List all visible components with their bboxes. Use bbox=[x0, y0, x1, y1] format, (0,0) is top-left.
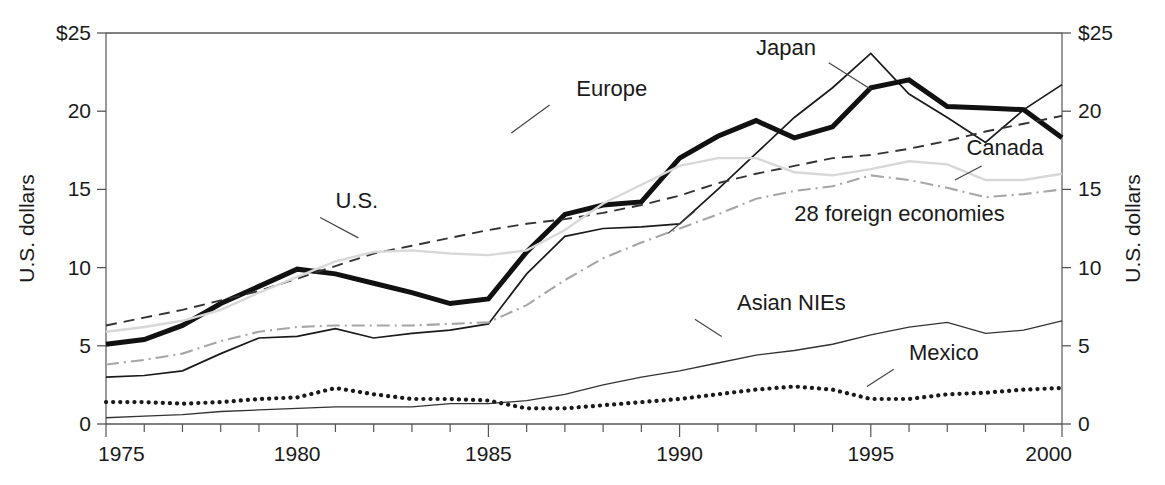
y-tick-label-left-15: 15 bbox=[68, 177, 91, 200]
x-tick-label-1995: 1995 bbox=[847, 442, 894, 465]
series-label-japan: Japan bbox=[756, 35, 816, 60]
series-label-28-foreign-economies: 28 foreign economies bbox=[794, 201, 1004, 226]
x-tick-label-2000: 2000 bbox=[1025, 442, 1072, 465]
y-axis-title-right: U.S. dollars bbox=[1121, 174, 1144, 283]
series-label-europe: Europe bbox=[576, 76, 647, 101]
series-label-mexico: Mexico bbox=[909, 340, 979, 365]
y-axis-title-left: U.S. dollars bbox=[15, 174, 38, 283]
series-label-asian-nies: Asian NIEs bbox=[737, 290, 846, 315]
series-label-u-s-: U.S. bbox=[335, 188, 378, 213]
x-tick-label-1975: 1975 bbox=[98, 442, 145, 465]
y-tick-label-left-20: 20 bbox=[68, 99, 91, 122]
y-tick-label-left-5: 5 bbox=[79, 334, 91, 357]
chart-figure: $2520151050$2520151050197519801985199019… bbox=[0, 0, 1165, 485]
y-tick-label-right-15: 15 bbox=[1078, 177, 1101, 200]
x-tick-label-1990: 1990 bbox=[656, 442, 703, 465]
series-label-canada: Canada bbox=[966, 135, 1044, 160]
x-tick-label-1980: 1980 bbox=[274, 442, 321, 465]
y-tick-label-right-5: 5 bbox=[1078, 334, 1090, 357]
line-chart-canvas: $2520151050$2520151050197519801985199019… bbox=[0, 0, 1165, 485]
y-tick-label-left-10: 10 bbox=[68, 256, 91, 279]
y-tick-label-right-0: 0 bbox=[1078, 412, 1090, 435]
y-tick-label-left-25: $25 bbox=[56, 21, 91, 44]
y-tick-label-right-25: $25 bbox=[1078, 21, 1113, 44]
y-tick-label-left-0: 0 bbox=[79, 412, 91, 435]
y-tick-label-right-10: 10 bbox=[1078, 256, 1101, 279]
y-tick-label-right-20: 20 bbox=[1078, 99, 1101, 122]
x-tick-label-1985: 1985 bbox=[465, 442, 512, 465]
